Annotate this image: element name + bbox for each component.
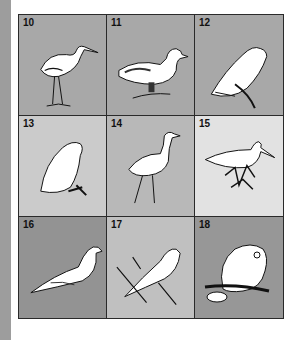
left-edge-strip <box>0 0 11 340</box>
grid-cell-11: 11 <box>107 15 195 116</box>
grid-cell-10: 10 <box>19 15 107 116</box>
crane-icon <box>107 116 194 216</box>
ptarmigan-icon <box>19 116 106 216</box>
dove-icon <box>19 217 106 318</box>
grid-cell-13: 13 <box>19 116 107 217</box>
owl-icon <box>195 217 283 318</box>
falcon-icon <box>195 15 283 115</box>
heron-icon <box>19 15 106 115</box>
grid-cell-17: 17 <box>107 217 195 318</box>
grid-cell-14: 14 <box>107 116 195 217</box>
duck-icon <box>107 15 194 115</box>
bird-grid: 10 11 12 13 14 <box>18 14 284 319</box>
grid-cell-18: 18 <box>195 217 283 318</box>
dove-on-branch-icon <box>107 217 194 318</box>
grid-cell-16: 16 <box>19 217 107 318</box>
grid-cell-15: 15 <box>195 116 283 217</box>
sandpiper-icon <box>195 116 283 216</box>
grid-cell-12: 12 <box>195 15 283 116</box>
